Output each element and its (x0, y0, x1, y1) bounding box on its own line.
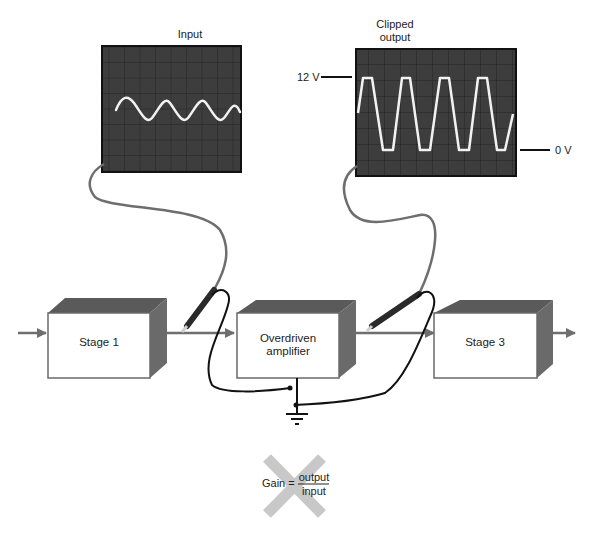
amplifier-box-top (237, 300, 356, 313)
stage-3-box-side (537, 300, 553, 378)
input-probe (182, 290, 214, 332)
gain-denominator: input (302, 485, 326, 497)
amplifier-box-side (339, 300, 356, 378)
gain-formula: Gain = output input (262, 458, 329, 514)
diagram-canvas: Input Clipped output 12 V 0 V Stage 1 Ov… (0, 0, 590, 537)
output-probe-cable (344, 166, 435, 292)
amplifier-box: Overdriven amplifier (237, 300, 356, 378)
input-scope-label: Input (178, 28, 202, 40)
stage-1-box-top (48, 298, 167, 313)
amplifier-label-2: amplifier (266, 345, 310, 357)
0v-marker-label: 0 V (555, 144, 572, 156)
input-scope-screen (102, 46, 241, 172)
output-probe (367, 294, 419, 331)
stage-1-box: Stage 1 (48, 298, 167, 378)
stage-3-box-top (434, 300, 553, 313)
amplifier-label-1: Overdriven (260, 332, 316, 344)
input-scope: Input (102, 28, 241, 172)
output-scope-label-2: output (380, 31, 411, 43)
gain-lhs: Gain = (262, 477, 295, 489)
output-scope: Clipped output 12 V 0 V (297, 18, 572, 176)
ground-symbol (286, 378, 308, 424)
input-probe-cable (90, 164, 227, 288)
stage-1-label: Stage 1 (79, 336, 119, 348)
output-scope-label-1: Clipped (376, 18, 413, 30)
gain-numerator: output (299, 471, 330, 483)
12v-marker-label: 12 V (297, 71, 320, 83)
stage-3-box: Stage 3 (434, 300, 553, 378)
stage-3-label: Stage 3 (465, 336, 505, 348)
